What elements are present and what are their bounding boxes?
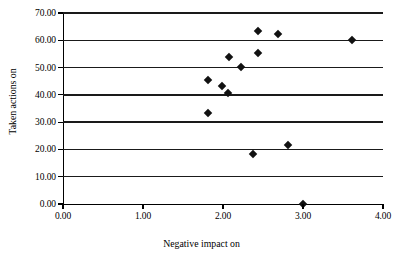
x-tick-label-wrap: 4.00	[360, 211, 403, 221]
x-axis-title: Negative impact on	[0, 238, 403, 249]
gridline-horizontal	[63, 12, 383, 13]
y-tick-label-wrap: 70.00	[0, 8, 56, 18]
y-tick-label: 0.00	[2, 199, 56, 209]
data-point	[254, 27, 262, 35]
y-tick-mark	[58, 149, 63, 150]
y-tick-mark	[58, 176, 63, 177]
data-point	[224, 89, 232, 97]
gridline-horizontal	[63, 121, 383, 122]
x-tick-mark	[382, 204, 383, 209]
data-point	[274, 30, 282, 38]
data-point	[204, 109, 212, 117]
data-point	[204, 76, 212, 84]
x-tick-mark	[222, 204, 223, 209]
gridline-horizontal	[63, 149, 383, 150]
gridline-horizontal	[63, 176, 383, 177]
data-point	[218, 82, 226, 90]
x-tick-label-wrap: 3.00	[280, 211, 326, 221]
data-point	[249, 149, 257, 157]
x-tick-label: 4.00	[360, 211, 403, 221]
y-tick-mark	[58, 122, 63, 123]
y-tick-mark	[58, 12, 63, 13]
x-tick-label-wrap: 1.00	[120, 211, 166, 221]
plot-area	[63, 13, 383, 204]
x-tick-mark	[142, 204, 143, 209]
gridline-horizontal	[63, 40, 383, 41]
x-tick-mark	[302, 204, 303, 209]
x-tick-label-wrap: 0.00	[40, 211, 86, 221]
y-tick-mark	[58, 40, 63, 41]
y-tick-mark	[58, 67, 63, 68]
y-axis-title: Taken actions on	[7, 37, 18, 167]
scatter-chart: 0.0010.0020.0030.0040.0050.0060.0070.00 …	[0, 0, 403, 263]
y-tick-label-wrap: 10.00	[0, 172, 56, 182]
data-point	[225, 53, 233, 61]
x-tick-label-wrap: 2.00	[200, 211, 246, 221]
data-point	[254, 49, 262, 57]
gridline-horizontal	[63, 94, 383, 95]
x-tick-label: 3.00	[280, 211, 326, 221]
x-tick-label: 0.00	[40, 211, 86, 221]
x-tick-label: 2.00	[200, 211, 246, 221]
y-tick-label: 70.00	[2, 8, 56, 18]
x-tick-mark	[62, 204, 63, 209]
gridline-horizontal	[63, 67, 383, 68]
y-tick-mark	[58, 94, 63, 95]
y-tick-label: 10.00	[2, 172, 56, 182]
x-tick-label: 1.00	[120, 211, 166, 221]
data-point	[348, 36, 356, 44]
data-point	[236, 63, 244, 71]
y-tick-label-wrap: 0.00	[0, 199, 56, 209]
